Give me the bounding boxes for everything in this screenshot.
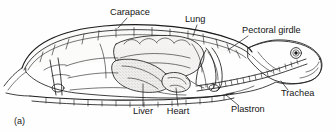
label-plastron: Plastron xyxy=(231,104,265,114)
panel-label: (a) xyxy=(14,116,25,126)
turtle-anatomy-drawing: Carapace Lung Pectoral girdle Trachea Pl… xyxy=(0,0,336,132)
label-lung: Lung xyxy=(185,14,205,24)
figure-container: Carapace Lung Pectoral girdle Trachea Pl… xyxy=(0,0,336,132)
label-pectoral-girdle: Pectoral girdle xyxy=(242,25,301,35)
label-trachea: Trachea xyxy=(281,88,315,98)
label-carapace: Carapace xyxy=(110,7,150,17)
label-liver: Liver xyxy=(133,106,153,116)
label-heart: Heart xyxy=(167,106,190,116)
